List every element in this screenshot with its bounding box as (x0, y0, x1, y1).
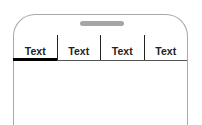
tab-label: Text (68, 45, 89, 57)
speaker-icon (80, 21, 124, 26)
tab-label: Text (25, 45, 46, 57)
tab-bar: Text Text Text Text (14, 35, 187, 61)
tab-2[interactable]: Text (57, 35, 101, 60)
tab-label: Text (155, 45, 176, 57)
tab-4[interactable]: Text (144, 35, 188, 60)
tab-1[interactable]: Text (14, 35, 57, 60)
tab-3[interactable]: Text (100, 35, 144, 60)
phone-frame: Text Text Text Text (13, 14, 188, 125)
tab-label: Text (112, 45, 133, 57)
